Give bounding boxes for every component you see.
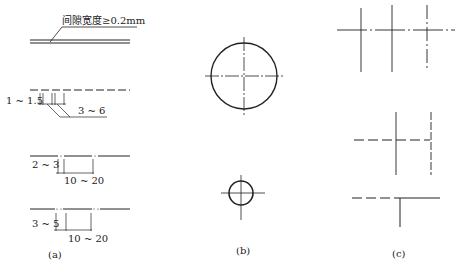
panel-a: 间隙宽度≥0.2mm 1 ~ 1.5 3 ~ 6 [6,14,146,260]
chain-gap-label: 2 ~ 3 [32,159,59,170]
large-circle-centerlines [205,37,285,117]
double-chain-dash-label: 10 ~ 20 [68,233,108,244]
gap-annotation: 间隙宽度≥0.2mm [62,14,146,26]
caption-c: (c) [392,248,406,259]
caption-b: (b) [236,245,250,256]
dashed-gap-label: 1 ~ 1.5 [6,95,43,106]
line-types-diagram: 间隙宽度≥0.2mm 1 ~ 1.5 3 ~ 6 [0,0,458,268]
chain-dash-label: 10 ~ 20 [64,175,104,186]
chain-line-spec: 2 ~ 3 10 ~ 20 [30,155,130,186]
dashed-line-spec: 1 ~ 1.5 3 ~ 6 [6,90,130,117]
dashed-dash-label: 3 ~ 6 [78,105,105,116]
intersections-bottom [352,198,440,227]
double-chain-gap-label: 3 ~ 5 [32,218,59,229]
caption-a: (a) [48,249,62,260]
small-circle-centerlines [221,175,265,220]
panel-c: (c) [337,5,455,259]
double-chain-line-spec: 3 ~ 5 10 ~ 20 [30,208,130,244]
double-line-gap: 间隙宽度≥0.2mm [30,14,146,43]
panel-b: (b) [205,37,285,256]
intersections-middle [354,112,431,175]
intersections-top [337,5,455,72]
